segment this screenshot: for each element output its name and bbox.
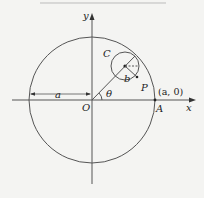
x-axis-label: x bbox=[186, 102, 192, 113]
radius-a-label: a bbox=[55, 89, 61, 100]
point-A-label: A bbox=[155, 103, 163, 114]
origin-label: O bbox=[82, 102, 90, 113]
radius-b-label: b bbox=[124, 73, 130, 84]
point-A-dot bbox=[154, 99, 157, 102]
x-axis bbox=[12, 98, 196, 103]
point-A-coords-label: (a, 0) bbox=[158, 86, 183, 97]
y-axis-arrow-icon bbox=[90, 13, 95, 20]
point-P-dot bbox=[136, 76, 139, 79]
epicycloid-diagram: y x O A (a, 0) C P b a θ bbox=[0, 0, 204, 198]
point-P-label: P bbox=[140, 82, 148, 93]
angle-theta-label: θ bbox=[106, 88, 112, 99]
small-circle-label: C bbox=[103, 48, 111, 59]
angle-arc bbox=[99, 93, 102, 100]
y-axis-label: y bbox=[82, 10, 89, 21]
